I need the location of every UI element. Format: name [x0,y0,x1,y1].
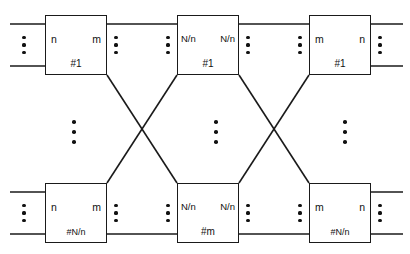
node-right-port-label: N/n [220,34,235,44]
node-left-port-label: n [51,34,57,45]
switch-node-s1_k[interactable]: nm#N/n [45,183,107,243]
switch-node-s3_1[interactable]: mn#1 [309,15,371,75]
node-port-row: nm [51,202,101,213]
node-left-port-label: m [315,34,324,45]
node-index-label: #m [178,227,238,237]
node-index-label: #1 [46,59,106,69]
switch-node-s2_1[interactable]: N/nN/n#1 [177,15,239,75]
node-index-label: #N/n [46,228,106,237]
diagram-canvas: nm#1N/nN/n#1mn#1nm#N/nN/nN/n#mmn#N/n [0,0,410,254]
node-index-label: #N/n [310,228,370,237]
switch-node-s2_m[interactable]: N/nN/n#m [177,183,239,243]
port-ellipsis-icon-link-top-c [246,36,250,54]
node-port-row: N/nN/n [181,34,235,44]
port-ellipsis-icon-link-bottom-b [166,204,170,222]
port-ellipsis-icon-link-bottom-d [298,204,302,222]
stage-ellipsis-icon-stage1-vertical [72,120,76,144]
port-ellipsis-icon-link-bottom-a [114,204,118,222]
node-port-row: mn [315,34,365,45]
stage-ellipsis-icon-stage2-vertical [214,120,218,144]
node-right-port-label: m [92,202,101,213]
node-index-label: #1 [310,59,370,69]
port-ellipsis-icon-out-top-right [378,36,382,54]
port-ellipsis-icon-link-top-d [298,36,302,54]
node-right-port-label: N/n [220,202,235,212]
node-left-port-label: n [51,202,57,213]
port-ellipsis-icon-link-top-a [114,36,118,54]
port-ellipsis-icon-in-top-left [22,36,26,54]
port-ellipsis-icon-out-bottom-right [378,204,382,222]
node-left-port-label: N/n [181,202,196,212]
node-port-row: N/nN/n [181,202,235,212]
node-index-label: #1 [178,59,238,69]
port-ellipsis-icon-link-top-b [166,36,170,54]
port-ellipsis-icon-in-bottom-left [22,204,26,222]
node-right-port-label: n [359,34,365,45]
node-right-port-label: n [359,202,365,213]
switch-node-s1_1[interactable]: nm#1 [45,15,107,75]
switch-node-s3_k[interactable]: mn#N/n [309,183,371,243]
node-left-port-label: N/n [181,34,196,44]
node-left-port-label: m [315,202,324,213]
node-port-row: mn [315,202,365,213]
port-ellipsis-icon-link-bottom-c [246,204,250,222]
node-right-port-label: m [92,34,101,45]
node-port-row: nm [51,34,101,45]
stage-ellipsis-icon-stage3-vertical [343,120,347,144]
